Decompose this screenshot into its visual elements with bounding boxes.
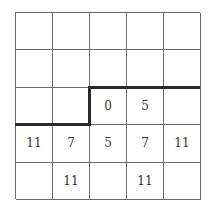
grid-cell-r4-c4 bbox=[164, 163, 201, 200]
boundary-line-left-horizontal bbox=[15, 123, 90, 126]
boundary-line-vertical bbox=[88, 86, 91, 126]
grid-cell-r2-c2: 0 bbox=[90, 88, 127, 125]
grid-cell-r0-c3 bbox=[127, 13, 164, 50]
grid-cell-r3-c4: 11 bbox=[164, 125, 201, 162]
grid-cell-r1-c1 bbox=[53, 50, 90, 87]
grid-cell-r2-c0 bbox=[16, 88, 53, 125]
grid-cell-r4-c3: 11 bbox=[127, 163, 164, 200]
number-grid: 0 5 11 7 5 7 11 11 11 bbox=[15, 12, 200, 199]
boundary-line-right-horizontal bbox=[88, 86, 200, 89]
grid-cell-r4-c1: 11 bbox=[53, 163, 90, 200]
grid-cell-r0-c4 bbox=[164, 13, 201, 50]
grid-cell-r2-c4 bbox=[164, 88, 201, 125]
grid-cell-r1-c4 bbox=[164, 50, 201, 87]
grid-cell-r0-c2 bbox=[90, 13, 127, 50]
grid-cell-r3-c1: 7 bbox=[53, 125, 90, 162]
grid-cell-r2-c3: 5 bbox=[127, 88, 164, 125]
grid-cell-r1-c2 bbox=[90, 50, 127, 87]
grid-cell-r0-c1 bbox=[53, 13, 90, 50]
grid-cell-r2-c1 bbox=[53, 88, 90, 125]
grid-cell-r4-c0 bbox=[16, 163, 53, 200]
grid-cell-r0-c0 bbox=[16, 13, 53, 50]
grid-cell-r3-c3: 7 bbox=[127, 125, 164, 162]
grid-cell-r1-c3 bbox=[127, 50, 164, 87]
grid-cell-r3-c0: 11 bbox=[16, 125, 53, 162]
grid-cell-r4-c2 bbox=[90, 163, 127, 200]
grid-cell-r1-c0 bbox=[16, 50, 53, 87]
grid-cell-r3-c2: 5 bbox=[90, 125, 127, 162]
